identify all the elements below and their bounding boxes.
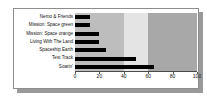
x-tick-label: 40	[121, 72, 127, 81]
y-axis-label: Soarin'	[59, 63, 73, 71]
bar-mission-space-orange	[75, 32, 99, 36]
x-tick-label: 20	[97, 72, 103, 81]
background-band-1	[124, 13, 148, 71]
bar-test-track	[75, 57, 136, 61]
background-band-2	[148, 13, 197, 71]
chart-card: Nemo & Friends Mission: Space green Miss…	[13, 8, 199, 89]
x-tick-label: 0	[74, 72, 77, 81]
plot-area	[75, 13, 197, 71]
x-tick-label: 60	[145, 72, 151, 81]
y-axis-label: Mission: Space green	[29, 21, 73, 29]
y-axis-category-labels: Nemo & Friends Mission: Space green Miss…	[16, 13, 74, 71]
bar-living-with-the-land	[75, 40, 99, 44]
y-axis-label: Spaceship Earth	[39, 46, 73, 54]
bar-spaceship-earth	[75, 48, 106, 52]
bar-mission-space-green	[75, 23, 90, 27]
screenshot-root: Nemo & Friends Mission: Space green Miss…	[0, 0, 207, 100]
bar-soarin	[75, 65, 154, 69]
y-axis-label: Mission: Space orange	[26, 30, 73, 38]
y-axis-label: Nemo & Friends	[40, 13, 73, 21]
bar-nemo-and-friends	[75, 15, 90, 19]
x-axis-tick-labels: 0 20 40 60 80 100	[75, 72, 197, 82]
y-axis-label: Test Track	[52, 54, 73, 62]
x-tick-label: 80	[170, 72, 176, 81]
x-tick-label: 100	[193, 72, 201, 81]
y-axis-label: Living With The Land	[30, 38, 73, 46]
